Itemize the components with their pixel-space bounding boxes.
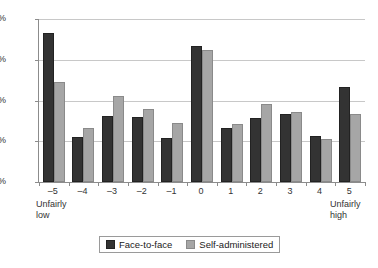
bar-group	[158, 19, 188, 182]
bar-group	[128, 19, 158, 182]
bar-group	[187, 19, 217, 182]
x-axis-tick-label: 1	[216, 186, 246, 196]
bar	[72, 137, 83, 182]
bar	[54, 82, 65, 182]
bar	[83, 128, 94, 182]
bar	[232, 124, 243, 182]
legend-swatch-icon-face-to-face	[106, 240, 115, 249]
x-axis-labels: –5–4–3–2–1012345	[38, 186, 364, 196]
bar	[250, 118, 261, 182]
bar-chart: 0%5%10%15%20% –5–4–3–2–1012345 Unfairly …	[0, 0, 378, 268]
legend-swatch-icon-self-administered	[186, 240, 195, 249]
bar-group	[39, 19, 69, 182]
bar	[280, 114, 291, 182]
legend-label-self-administered: Self-administered	[199, 239, 273, 250]
axis-anchor-high-line2: high	[330, 210, 361, 221]
x-axis-tick-label: –1	[157, 186, 187, 196]
y-axis-tick-label: 5%	[0, 136, 6, 145]
plot-area	[38, 19, 365, 183]
x-axis-tick-mark	[365, 182, 366, 186]
x-axis-tick-label: –4	[68, 186, 98, 196]
bar	[43, 33, 54, 182]
y-axis-tick-label: 20%	[0, 14, 6, 23]
legend-item-self-administered: Self-administered	[186, 239, 273, 250]
bar	[191, 46, 202, 182]
legend-label-face-to-face: Face-to-face	[119, 239, 172, 250]
axis-anchor-low-line2: low	[36, 210, 67, 221]
bar-group	[217, 19, 247, 182]
x-axis-tick-label: 3	[275, 186, 305, 196]
bar	[132, 117, 143, 182]
x-axis-tick-label: 2	[245, 186, 275, 196]
bar-group	[335, 19, 365, 182]
bar	[102, 116, 113, 182]
bar-group	[276, 19, 306, 182]
bar	[202, 50, 213, 182]
bar	[221, 128, 232, 182]
x-axis-tick-label: –3	[97, 186, 127, 196]
bar-groups	[39, 19, 365, 182]
y-axis-tick-label: 0%	[0, 177, 6, 186]
y-axis-tick-label: 15%	[0, 55, 6, 64]
bar	[310, 136, 321, 182]
bar	[291, 112, 302, 182]
axis-anchor-low: Unfairly low	[36, 199, 67, 221]
axis-anchor-high: Unfairly high	[330, 199, 361, 221]
x-axis-tick-label: 4	[305, 186, 335, 196]
bar	[350, 114, 361, 182]
bar	[161, 138, 172, 182]
x-axis-tick-label: –2	[127, 186, 157, 196]
y-axis-tick-label: 10%	[0, 96, 6, 105]
axis-anchor-low-line1: Unfairly	[36, 199, 67, 210]
bar	[321, 139, 332, 182]
bar	[339, 87, 350, 182]
bar	[261, 104, 272, 182]
bar	[172, 123, 183, 182]
bar-group	[306, 19, 336, 182]
bar-group	[246, 19, 276, 182]
bar	[143, 109, 154, 182]
legend-item-face-to-face: Face-to-face	[106, 239, 172, 250]
x-axis-tick-label: 0	[186, 186, 216, 196]
legend: Face-to-face Self-administered	[99, 236, 280, 253]
bar	[113, 96, 124, 182]
x-axis-tick-label: 5	[334, 186, 364, 196]
bar-group	[69, 19, 99, 182]
axis-anchor-high-line1: Unfairly	[330, 199, 361, 210]
x-axis-tick-label: –5	[38, 186, 68, 196]
bar-group	[98, 19, 128, 182]
